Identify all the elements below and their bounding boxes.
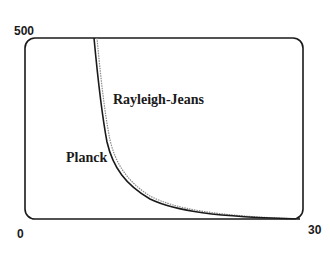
- rayleigh-jeans-curve: [97, 38, 300, 219]
- plot-frame: [25, 38, 303, 219]
- x-max-label: 30: [308, 223, 322, 237]
- y-max-label: 500: [14, 24, 34, 38]
- blackbody-chart: 500 0 30 Rayleigh-Jeans Planck: [0, 0, 330, 254]
- rayleigh-jeans-label: Rayleigh-Jeans: [113, 92, 205, 107]
- planck-curve: [94, 38, 300, 219]
- origin-label: 0: [17, 227, 24, 241]
- planck-label: Planck: [66, 150, 107, 165]
